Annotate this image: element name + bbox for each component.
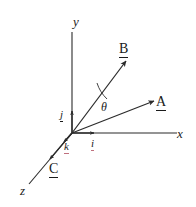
y-axis-label: y <box>73 15 79 28</box>
vector-b-label: B <box>119 42 128 58</box>
angle-theta-arc <box>97 83 107 99</box>
vector-a-label: A <box>156 95 166 111</box>
unit-k-label: k <box>64 141 69 154</box>
unit-i-label: i <box>91 138 94 151</box>
z-axis-label: z <box>20 184 25 197</box>
angle-theta-label: θ <box>101 101 107 113</box>
diagram-canvas <box>0 0 196 207</box>
x-axis-label: x <box>177 127 183 140</box>
vector-c-label: C <box>49 162 58 178</box>
vector-diagram-figure: y x z A B C j i k θ <box>0 0 196 207</box>
unit-j-label: j <box>60 109 63 122</box>
